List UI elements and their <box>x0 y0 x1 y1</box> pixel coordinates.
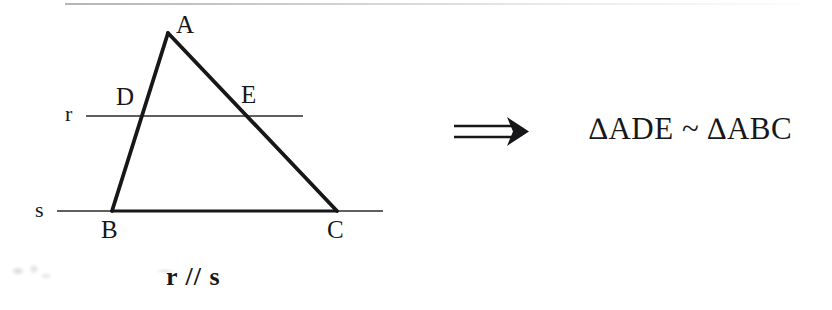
double-right-arrow-icon <box>450 112 535 154</box>
point-label-d: D <box>116 84 134 109</box>
triangle-side-AB <box>112 33 168 211</box>
point-label-e: E <box>241 82 256 107</box>
vertex-label-c: C <box>327 217 344 242</box>
vertex-label-b: B <box>101 217 118 242</box>
line-label-r: r <box>65 103 72 125</box>
parallel-caption: r // s <box>166 262 221 292</box>
conclusion-statement: ∆ADE ~ ∆ABC <box>589 113 792 146</box>
geometry-figure: A D E B C r s r // s ∆ADE ~ ∆ABC <box>0 0 832 310</box>
line-label-s: s <box>35 199 44 221</box>
triangle-side-AC <box>168 33 337 211</box>
vertex-label-a: A <box>176 12 194 37</box>
